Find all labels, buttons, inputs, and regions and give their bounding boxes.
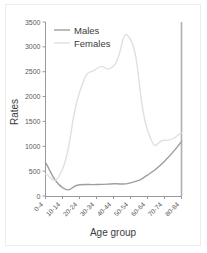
x-tick-label: 40-44 — [96, 200, 113, 217]
x-tick-label: 70-74 — [147, 200, 164, 217]
x-tick-label: 0-4 — [33, 200, 45, 212]
x-tick-label: 80-84 — [164, 200, 181, 217]
series-line-females — [46, 35, 182, 181]
x-tick-label: 50-54 — [113, 200, 130, 217]
chart-figure: 0500100015002000250030003500 0-410-1420-… — [0, 0, 207, 253]
series-group — [46, 35, 182, 190]
y-tick-label: 1500 — [25, 118, 41, 125]
y-tick-label-group: 0500100015002000250030003500 — [25, 19, 41, 200]
legend-label-females: Females — [74, 38, 111, 49]
y-tick-label: 2000 — [25, 93, 41, 100]
x-tick-label: 10-14 — [45, 200, 62, 217]
x-tick-label: 30-34 — [79, 200, 96, 217]
legend: Males Females — [54, 25, 111, 49]
y-tick-label: 1000 — [25, 143, 41, 150]
x-tick-label: 60-64 — [130, 200, 147, 217]
y-tick-label: 3500 — [25, 19, 41, 26]
y-axis-title: Rates — [9, 99, 20, 125]
x-tick-label: 20-24 — [62, 200, 79, 217]
series-line-males — [46, 142, 182, 190]
y-tick-label: 500 — [29, 168, 41, 175]
line-chart: 0500100015002000250030003500 0-410-1420-… — [0, 0, 207, 253]
x-tick-label-group: 0-410-1420-2430-3440-4450-5460-6470-7480… — [33, 200, 181, 217]
y-tick-label: 0 — [37, 193, 41, 200]
y-tick-label: 2500 — [25, 68, 41, 75]
legend-label-males: Males — [74, 25, 100, 36]
x-axis-title: Age group — [90, 227, 137, 238]
y-tick-label: 3000 — [25, 43, 41, 50]
